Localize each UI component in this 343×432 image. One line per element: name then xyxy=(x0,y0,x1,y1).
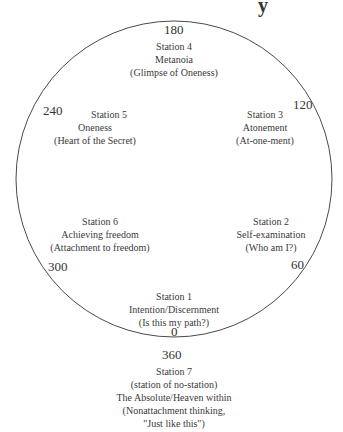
station-2-subtitle: (Who am I?) xyxy=(216,241,326,254)
station-3-subtitle: (At-one-ment) xyxy=(220,134,310,147)
station-2-label: Station 2 Self-examination (Who am I?) xyxy=(216,215,326,254)
station-5-title: Station 5 xyxy=(40,108,150,121)
seven-stations-diagram: y 180 Station 4 Metanoia (Glimpse of One… xyxy=(0,0,343,432)
station-5-name: Oneness xyxy=(40,121,150,134)
degree-0: 0 xyxy=(171,325,178,339)
degree-360: 360 xyxy=(162,348,182,362)
station-3-name: Atonement xyxy=(220,121,310,134)
degree-180: 180 xyxy=(164,23,184,37)
station-6-title: Station 6 xyxy=(35,215,165,228)
degree-300: 300 xyxy=(48,260,68,274)
station-7-title: Station 7 xyxy=(94,365,254,378)
station-2-title: Station 2 xyxy=(216,215,326,228)
degree-60: 60 xyxy=(291,258,304,272)
station-2-name: Self-examination xyxy=(216,228,326,241)
station-1-title: Station 1 xyxy=(104,290,244,303)
station-7-name: The Absolute/Heaven within xyxy=(94,391,254,404)
station-7-subtitle: (station of no-station) xyxy=(94,378,254,391)
station-4-label: Station 4 Metanoia (Glimpse of Oneness) xyxy=(104,40,244,79)
station-4-title: Station 4 xyxy=(104,40,244,53)
station-1-name: Intention/Discernment xyxy=(104,303,244,316)
station-4-subtitle: (Glimpse of Oneness) xyxy=(104,66,244,79)
station-6-subtitle: (Attachment to freedom) xyxy=(35,241,165,254)
station-7-note-1: (Nonattachment thinking, xyxy=(94,404,254,417)
station-7-label: Station 7 (station of no-station) The Ab… xyxy=(94,365,254,430)
station-6-name: Achieving freedom xyxy=(35,228,165,241)
station-7-note-2: "Just like this") xyxy=(94,417,254,430)
station-4-name: Metanoia xyxy=(104,53,244,66)
station-3-title: Station 3 xyxy=(220,108,310,121)
station-6-label: Station 6 Achieving freedom (Attachment … xyxy=(35,215,165,254)
station-3-label: Station 3 Atonement (At-one-ment) xyxy=(220,108,310,147)
station-5-label: Station 5 Oneness (Heart of the Secret) xyxy=(40,108,150,147)
station-5-subtitle: (Heart of the Secret) xyxy=(40,134,150,147)
